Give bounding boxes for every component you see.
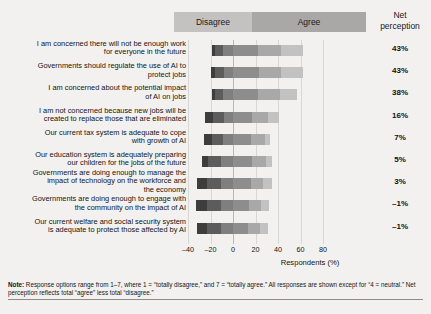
bar-segment [233,156,252,167]
category-label: Our current tax system is adequate to co… [4,129,186,146]
bar-row [188,89,323,100]
bar-segment [215,89,223,100]
bar-segment [223,89,233,100]
bar-segment [211,67,216,78]
bar-row [188,178,323,189]
category-label-line: of AI on jobs [4,93,186,102]
bar-segment [215,45,223,56]
bar-segment [233,200,249,211]
net-perception-value: 5% [372,155,428,164]
category-label: I am not concerned because new jobs will… [4,107,186,124]
net-perception-value: 38% [372,88,428,97]
bar-segment [221,178,233,189]
bar-segment [258,45,282,56]
gridline [323,40,324,244]
bar-segment [212,134,223,145]
bar-segment [233,89,258,100]
category-label-line: created to replace those that are elimin… [4,115,186,124]
bar-segment [221,223,233,234]
net-perception-header-line1: Net [372,10,428,21]
bar-row [188,156,323,167]
category-label-line: is adequate to protect those affected by… [4,226,186,235]
bar-segment [233,67,259,78]
net-perception-value: 43% [372,44,428,53]
net-perception-value: 3% [372,177,428,186]
bottom-rule [8,299,423,300]
bar-segment [233,134,251,145]
bar-segment [251,134,265,145]
bar-segment [233,178,251,189]
net-perception-value: 7% [372,133,428,142]
category-label: Governments should regulate the use of A… [4,62,186,79]
legend-band-agree: Agree [252,12,366,32]
bar-segment [213,112,224,123]
bar-segment [223,45,233,56]
category-label: Our education system is adequately prepa… [4,151,186,168]
bar-segment [197,223,207,234]
bar-segment [268,112,279,123]
bar-segment [221,156,233,167]
bar-segment [221,200,233,211]
bar-segment [207,200,221,211]
legend-label-agree: Agree [252,12,366,32]
x-axis-tick: 80 [308,245,338,254]
net-perception-value: –1% [372,199,428,208]
bar-row [188,112,323,123]
x-axis-title: Respondents (%) [250,258,370,267]
bar-segment [248,223,260,234]
footnote-line1: Response options range from 1–7, where 1… [24,281,404,288]
bar-segment [281,67,302,78]
bar-segment [207,223,221,234]
net-perception-value: –1% [372,222,428,231]
category-label: Our current welfare and social security … [4,218,186,235]
bar-segment [263,178,272,189]
net-perception-header-line2: perception [372,21,428,32]
category-label-line: for everyone in the future [4,48,186,57]
category-label-line: protect jobs [4,71,186,80]
bar-segment [212,89,215,100]
bar-row [188,45,323,56]
bar-segment [196,200,207,211]
legend-label-disagree: Disagree [174,12,252,32]
category-label: Governments are doing enough to engage w… [4,195,186,212]
footnote: Note: Response options range from 1–7, w… [8,281,423,296]
chart-container: Disagree Agree Net perception I am conce… [0,0,431,314]
bar-row [188,134,323,145]
bar-segment [259,67,282,78]
bar-segment [252,112,268,123]
legend-band-disagree: Disagree [174,12,252,32]
bar-segment [224,67,233,78]
bar-row [188,67,323,78]
net-perception-value: 43% [372,66,428,75]
footnote-prefix: Note: [8,281,24,288]
bar-segment [204,134,212,145]
bar-segment [223,134,233,145]
bar-segment [266,156,273,167]
bar-segment [280,89,297,100]
bar-segment [233,223,248,234]
category-label-line: with growth of AI [4,137,186,146]
bar-segment [233,112,252,123]
category-label: Governments are doing enough to manage t… [4,169,186,195]
bar-segment [260,223,268,234]
x-axis: –40–20020406080 [188,245,323,257]
bar-segment [202,156,209,167]
category-label-line: our children for the jobs of the future [4,159,186,168]
bar-segment [265,134,271,145]
bar-segment [233,45,258,56]
bar-segment [224,112,233,123]
bar-segment [205,112,213,123]
category-label-line: the community on the impact of AI [4,204,186,213]
bar-segment [258,89,281,100]
bar-segment [281,45,302,56]
category-label-line: the economy [4,186,186,195]
bar-segment [249,200,261,211]
bar-segment [252,156,266,167]
net-perception-value: 16% [372,111,428,120]
bar-segment [207,178,221,189]
bar-row [188,200,323,211]
plot-area [188,40,323,244]
bar-segment [215,67,224,78]
bar-segment [197,178,207,189]
bar-row [188,223,323,234]
